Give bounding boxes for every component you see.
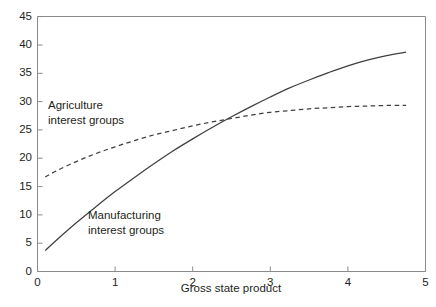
y-tick-label-25: 25 xyxy=(10,124,32,136)
x-tick-label-1: 1 xyxy=(112,277,118,289)
y-tick-label-15: 15 xyxy=(10,181,32,193)
x-axis-ticks xyxy=(38,267,426,272)
x-tick-label-5: 5 xyxy=(422,277,428,289)
x-tick-label-4: 4 xyxy=(345,277,351,289)
x-tick-label-0: 0 xyxy=(34,277,40,289)
chart-figure: 0 5 10 15 20 25 30 35 40 45 0 1 2 3 4 5 … xyxy=(0,0,436,307)
series-label-agriculture-line1: Agriculture xyxy=(48,98,124,113)
y-tick-label-45: 45 xyxy=(10,11,32,23)
y-tick-label-0: 0 xyxy=(10,266,32,278)
y-tick-label-35: 35 xyxy=(10,68,32,80)
y-axis-ticks xyxy=(38,17,43,272)
series-label-manufacturing-line1: Manufacturing xyxy=(88,208,164,223)
x-axis-title: Gross state product xyxy=(181,282,281,294)
y-tick-label-5: 5 xyxy=(10,237,32,249)
y-tick-label-10: 10 xyxy=(10,209,32,221)
y-tick-label-30: 30 xyxy=(10,96,32,108)
series-label-agriculture-line2: interest groups xyxy=(48,113,124,128)
series-label-manufacturing: Manufacturing interest groups xyxy=(88,208,164,237)
y-tick-label-40: 40 xyxy=(10,39,32,51)
plot-canvas xyxy=(0,0,436,307)
series-label-manufacturing-line2: interest groups xyxy=(88,223,164,238)
y-tick-label-20: 20 xyxy=(10,152,32,164)
series-label-agriculture: Agriculture interest groups xyxy=(48,98,124,127)
